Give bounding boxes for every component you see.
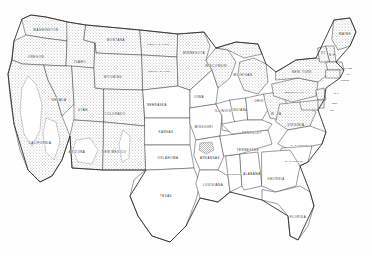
state-label-vt: VT.	[321, 51, 327, 55]
state-label-nd: NORTH DAKOTA	[148, 43, 171, 46]
state-label-nc: N. CAROLINA	[290, 144, 309, 147]
state-label-fl: FLORIDA	[290, 215, 306, 219]
state-label-sc: S. CAROLINA	[286, 160, 305, 163]
state-label-nm: NEW MEXICO	[102, 150, 127, 154]
state-label-wa: WASHINGTON	[33, 28, 58, 32]
state-label-ar: ARKANSAS	[200, 156, 220, 160]
state-florida[interactable]	[262, 186, 314, 240]
state-label-ne: NEBRASKA	[147, 103, 167, 107]
state-label-ga: GEORGIA	[267, 177, 284, 181]
state-label-ky: KENTUCKY	[242, 131, 262, 135]
state-massachusetts[interactable]	[326, 62, 344, 70]
state-label-mi: MICHIGAN	[234, 73, 253, 77]
state-label-ut: UTAH	[78, 108, 88, 112]
state-label-me: MAINE	[339, 32, 351, 36]
state-label-la: LOUISIANA	[203, 183, 223, 187]
state-label-in: INDIANA	[232, 108, 248, 112]
state-label-va: VIRGINIA	[287, 123, 304, 127]
edge-label-ct: CONN.	[341, 79, 350, 82]
us-map-svg: WASHINGTONOREGONCALIFORNIAIDAHONEVADAUTA…	[0, 0, 372, 256]
state-label-wy: WYOMING	[104, 75, 123, 79]
state-label-wi: WISCONSIN	[205, 64, 227, 68]
state-label-ny: NEW YORK	[292, 70, 312, 74]
us-map-figure: WASHINGTONOREGONCALIFORNIAIDAHONEVADAUTA…	[0, 0, 372, 256]
state-label-co: COLORADO	[105, 112, 126, 116]
edge-label-ma: MASS.	[344, 67, 353, 70]
state-label-nv: NEVADA	[52, 98, 67, 102]
state-label-ks: KANSAS	[158, 130, 173, 134]
edge-label-ri: R.I.	[347, 73, 352, 76]
state-label-nh: N.H.	[329, 53, 337, 57]
state-label-pa: PENNSYLVANIA	[284, 91, 306, 94]
state-label-sd: SOUTH DAKOTA	[149, 70, 172, 73]
state-colorado[interactable]	[104, 89, 145, 126]
state-label-mn: MINNESOTA	[183, 51, 205, 55]
state-label-ia: IOWA	[194, 95, 204, 99]
states-layer	[8, 15, 356, 242]
state-label-ok: OKLAHOMA	[158, 156, 179, 160]
state-label-id: IDAHO	[74, 60, 86, 64]
edge-label-nj: N.J.	[334, 92, 339, 95]
state-maryland[interactable]	[300, 100, 318, 110]
state-connecticut[interactable]	[326, 70, 340, 78]
state-label-ca: CALIFORNIA	[29, 141, 52, 145]
state-label-or: OREGON	[28, 55, 44, 59]
state-label-ms: MISSISSIPPI	[224, 173, 242, 176]
state-label-wv: W. VA.	[271, 112, 283, 116]
state-label-tx: TEXAS	[160, 194, 172, 198]
state-label-al: ALABAMA	[243, 172, 261, 176]
state-arkansas[interactable]	[194, 136, 224, 170]
state-label-az: ARIZONA	[69, 150, 86, 154]
edge-label-de: DEL.	[332, 102, 339, 105]
state-oregon[interactable]	[12, 35, 67, 66]
state-label-il: ILLINOIS	[215, 109, 231, 113]
state-label-mt: MONTANA	[107, 38, 125, 42]
state-label-oh: OHIO	[254, 99, 264, 103]
state-label-mo: MISSOURI	[195, 125, 214, 129]
state-label-tn: TENNESSEE	[237, 148, 259, 152]
edge-label-md: MD.	[330, 109, 335, 112]
